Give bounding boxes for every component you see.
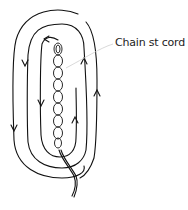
arrow-up-icon bbox=[72, 117, 78, 123]
outer-right-path bbox=[80, 22, 97, 178]
label-leader-line bbox=[66, 44, 113, 68]
arrow-left-icon bbox=[44, 36, 49, 42]
chain-st-cord-label: Chain st cord bbox=[115, 36, 185, 49]
yarn-tail bbox=[59, 150, 75, 196]
crochet-diagram: Chain st cord bbox=[0, 0, 188, 210]
arrow-down-icon bbox=[38, 100, 44, 106]
diagram-drawing bbox=[0, 0, 188, 210]
arrow-down-icon bbox=[22, 60, 28, 66]
chain-stitch-cord bbox=[54, 43, 63, 148]
